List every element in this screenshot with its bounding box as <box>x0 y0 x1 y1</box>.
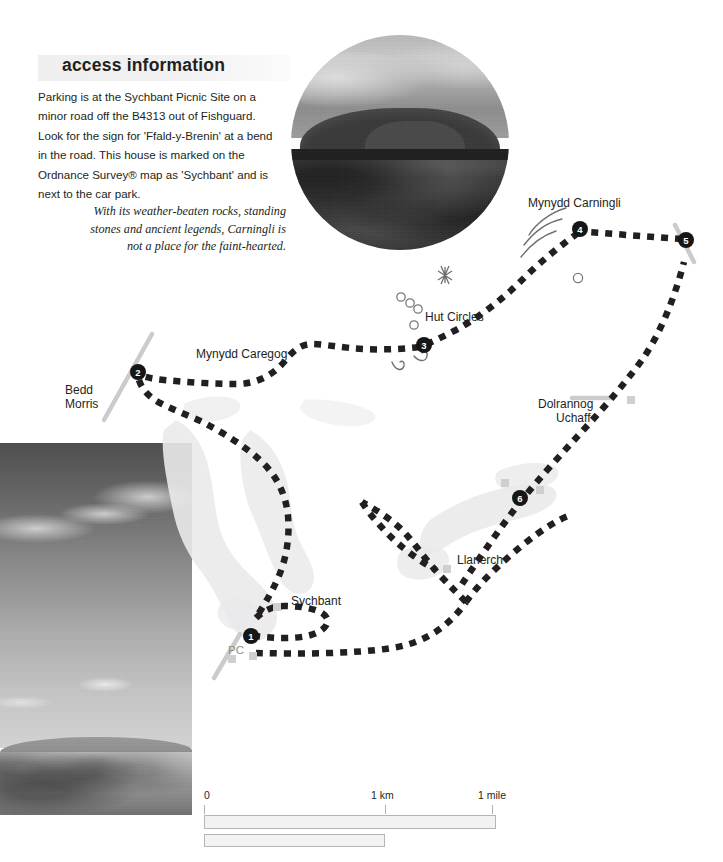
scale-tick-label: 1 km <box>371 789 394 801</box>
map-label-mynydd-carningli: Mynydd Carningli <box>528 196 621 211</box>
building-symbol <box>443 565 451 573</box>
waypoint-number: 3 <box>421 340 426 351</box>
map-label-sychbant: Sychbant <box>291 594 341 609</box>
scale-tick-mark <box>492 805 493 814</box>
scale-tick-label: 1 mile <box>478 789 506 801</box>
woodland-patch <box>240 430 314 594</box>
map-label-hut-circles: Hut Circles <box>425 310 484 325</box>
hut-circle-symbol <box>410 321 418 329</box>
route-segment-1-to-llanerch <box>256 602 466 653</box>
building-symbol <box>627 396 635 404</box>
map-label-dolrannog-line2: Uchaff <box>556 411 590 426</box>
map-label-bedd-morris-line2: Morris <box>65 397 98 412</box>
building-symbol <box>536 486 544 494</box>
waypoint-number: 1 <box>248 631 254 642</box>
hut-circle-symbol <box>414 305 422 313</box>
map-label-dolrannog-line1: Dolrannog <box>538 397 593 412</box>
waypoint-marker-4[interactable]: 4 <box>572 221 588 237</box>
route-segment-4-to-3 <box>427 233 578 344</box>
scale-bar-kilometres <box>204 815 496 829</box>
road-bedd-morris <box>104 334 152 420</box>
contour-mark <box>529 208 566 235</box>
scale-tick-marks <box>204 805 496 814</box>
building-symbol <box>501 479 509 487</box>
scale-tick-mark <box>204 805 205 814</box>
map-label-mynydd-caregog: Mynydd Caregog <box>196 347 287 362</box>
waypoint-number: 4 <box>577 224 583 235</box>
building-symbol <box>249 652 257 660</box>
spot-circle-symbol <box>573 273 582 282</box>
map-label-llanerch: Llanerch <box>457 553 503 568</box>
hut-circle-symbol <box>397 293 405 301</box>
contour-mark <box>524 219 562 245</box>
scale-tick-label: 0 <box>204 789 210 801</box>
scale-bar-miles <box>204 834 385 847</box>
woodland-patch <box>300 400 375 427</box>
woodland-patch <box>184 397 240 422</box>
waypoint-number: 6 <box>517 493 522 504</box>
walk-route-map: 123456 <box>0 0 723 862</box>
hut-circle-symbol <box>406 299 414 307</box>
map-label-public-conveniences: PC <box>228 643 244 658</box>
scale-bar: 01 km1 mile <box>204 789 496 847</box>
waypoint-number: 5 <box>683 235 689 246</box>
woodland-patch <box>218 598 259 630</box>
waypoint-marker-3[interactable]: 3 <box>416 337 432 353</box>
hook-mark <box>392 361 404 369</box>
map-page: access information Parking is at the Syc… <box>0 0 723 862</box>
route-segment-5-to-4 <box>586 232 682 239</box>
waypoint-marker-6[interactable]: 6 <box>512 490 528 506</box>
building-symbol <box>273 603 281 611</box>
waypoint-marker-5[interactable]: 5 <box>678 232 694 248</box>
map-label-bedd-morris-line1: Bedd <box>65 383 93 398</box>
scale-tick-mark <box>385 805 386 814</box>
scale-tick-labels: 01 km1 mile <box>204 789 496 805</box>
waypoint-marker-1[interactable]: 1 <box>243 628 259 644</box>
waypoint-number: 2 <box>135 367 140 378</box>
waypoint-marker-2[interactable]: 2 <box>130 364 146 380</box>
standing-stone-star-icon <box>438 266 452 284</box>
